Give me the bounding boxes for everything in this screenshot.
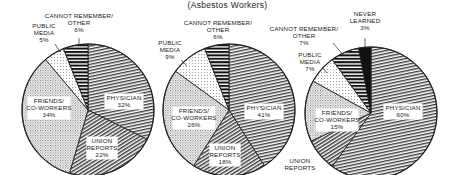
svg-text:PHYSICIAN: PHYSICIAN [385, 104, 420, 111]
svg-text:34%: 34% [43, 111, 56, 118]
slice-label: PHYSICIAN60% [383, 104, 422, 120]
svg-text:UNION: UNION [215, 144, 236, 151]
svg-text:PUBLIC: PUBLIC [32, 22, 56, 29]
slice-label: FRIENDS/CO-WORKERS34% [26, 97, 71, 120]
svg-text:32%: 32% [118, 101, 131, 108]
leader-line [333, 43, 344, 56]
callout-label: UNIONREPORTS [284, 157, 315, 171]
svg-text:OTHER: OTHER [68, 19, 91, 26]
callout-label: PUBLICMEDIA9% [158, 39, 187, 66]
svg-text:REPORTS: REPORTS [209, 151, 240, 158]
svg-text:5%: 5% [39, 36, 49, 43]
svg-text:CANNOT REMEMBER/: CANNOT REMEMBER/ [270, 25, 338, 32]
svg-text:60%: 60% [397, 111, 410, 118]
svg-text:REPORTS: REPORTS [284, 164, 315, 171]
svg-text:18%: 18% [219, 158, 232, 165]
svg-text:OTHER: OTHER [207, 26, 230, 33]
callout-label: NEVERLEARNED3% [350, 10, 381, 47]
svg-text:9%: 9% [165, 53, 175, 60]
svg-text:6%: 6% [213, 33, 223, 40]
svg-text:CANNOT REMEMBER/: CANNOT REMEMBER/ [45, 12, 113, 19]
pie-charts: PHYSICIAN32%UNIONREPORTS22%FRIENDS/CO-WO… [0, 0, 455, 175]
svg-text:FRIENDS/: FRIENDS/ [179, 107, 210, 114]
slice-label: PHYSICIAN41% [244, 104, 283, 120]
leader-line [55, 44, 60, 52]
slice-label: UNIONREPORTS22% [86, 137, 117, 160]
svg-text:NEVER: NEVER [354, 10, 377, 17]
svg-text:MEDIA: MEDIA [160, 46, 181, 53]
svg-text:41%: 41% [258, 111, 271, 118]
svg-text:CO-WORKERS: CO-WORKERS [314, 116, 359, 123]
slice-label: FRIENDS/CO-WORKERS15% [314, 109, 359, 132]
svg-text:PUBLIC: PUBLIC [298, 51, 322, 58]
svg-text:15%: 15% [331, 123, 344, 130]
svg-text:7%: 7% [299, 39, 309, 46]
svg-text:CO-WORKERS: CO-WORKERS [171, 114, 216, 121]
svg-text:UNION: UNION [92, 137, 113, 144]
svg-text:22%: 22% [96, 151, 109, 158]
svg-text:OTHER: OTHER [293, 32, 316, 39]
svg-text:6%: 6% [74, 26, 84, 33]
svg-text:FRIENDS/: FRIENDS/ [34, 97, 65, 104]
svg-text:CO-WORKERS: CO-WORKERS [26, 104, 71, 111]
svg-text:3%: 3% [360, 24, 370, 31]
slice-label: PHYSICIAN32% [104, 94, 143, 110]
svg-text:PHYSICIAN: PHYSICIAN [246, 104, 281, 111]
callout-label: PUBLICMEDIA5% [32, 22, 60, 52]
svg-text:LEARNED: LEARNED [350, 17, 381, 24]
svg-text:26%: 26% [188, 121, 201, 128]
callout-label: CANNOT REMEMBER/OTHER6% [184, 19, 252, 46]
svg-text:MEDIA: MEDIA [34, 29, 55, 36]
svg-text:CANNOT REMEMBER/: CANNOT REMEMBER/ [184, 19, 252, 26]
svg-text:FRIENDS/: FRIENDS/ [322, 109, 353, 116]
slice-label: UNIONREPORTS18% [209, 144, 240, 167]
slice-label: FRIENDS/CO-WORKERS26% [171, 107, 216, 130]
svg-text:UNION: UNION [290, 157, 311, 164]
svg-text:7%: 7% [305, 65, 315, 72]
svg-text:MEDIA: MEDIA [300, 58, 321, 65]
svg-text:REPORTS: REPORTS [86, 144, 117, 151]
svg-text:PHYSICIAN: PHYSICIAN [106, 94, 141, 101]
svg-text:PUBLIC: PUBLIC [158, 39, 182, 46]
callout-label: CANNOT REMEMBER/OTHER6% [45, 12, 113, 46]
